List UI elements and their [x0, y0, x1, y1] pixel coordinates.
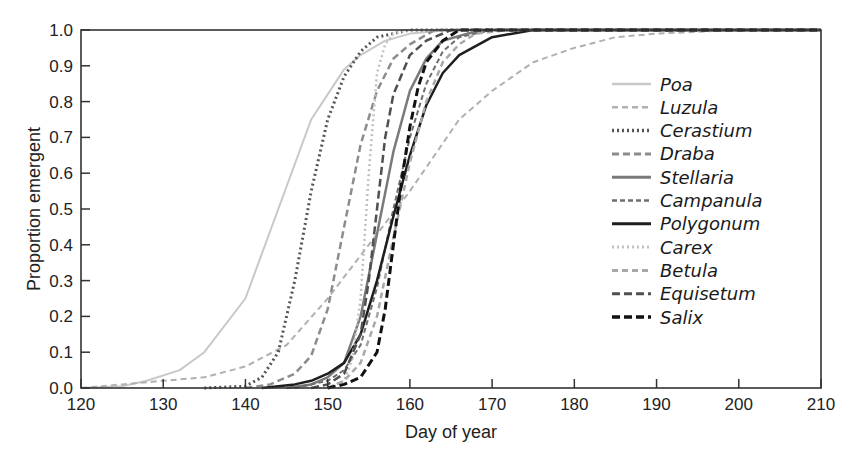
y-tick-label: 0.1 — [49, 343, 73, 362]
y-axis-title: Proportion emergent — [24, 127, 44, 291]
x-tick-label: 160 — [396, 395, 424, 414]
legend-label: Stellaria — [660, 167, 734, 188]
x-tick-label: 190 — [642, 395, 670, 414]
legend-item-carex: Carex — [612, 237, 713, 258]
legend-label: Luzula — [660, 97, 718, 118]
legend-item-equisetum: Equisetum — [612, 283, 756, 304]
y-tick-label: 0.6 — [49, 164, 73, 183]
y-tick-label: 0.4 — [49, 236, 73, 255]
legend-item-draba: Draba — [612, 143, 715, 164]
x-tick-label: 210 — [807, 395, 835, 414]
y-tick-label: 0.2 — [49, 307, 73, 326]
y-tick-label: 0.9 — [49, 57, 73, 76]
x-tick-label: 180 — [560, 395, 588, 414]
legend-label: Betula — [660, 260, 718, 281]
x-tick-label: 170 — [478, 395, 506, 414]
emergence-chart: 0.00.10.20.30.40.50.60.70.80.91.0 120130… — [0, 0, 850, 464]
legend-item-cerastium: Cerastium — [612, 120, 752, 141]
legend-label: Salix — [660, 307, 703, 328]
y-tick-label: 0.8 — [49, 93, 73, 112]
x-axis: 120130140150160170180190200210 — [67, 379, 835, 414]
legend-label: Campanula — [660, 190, 762, 211]
legend-label: Carex — [660, 237, 713, 258]
legend-label: Polygonum — [660, 213, 760, 234]
y-tick-label: 0.3 — [49, 272, 73, 291]
legend-item-campanula: Campanula — [612, 190, 762, 211]
y-tick-label: 0.5 — [49, 200, 73, 219]
y-tick-label: 1.0 — [49, 21, 73, 40]
x-axis-title: Day of year — [405, 422, 497, 442]
y-axis: 0.00.10.20.30.40.50.60.70.80.91.0 — [49, 21, 90, 398]
x-tick-label: 120 — [67, 395, 95, 414]
x-tick-label: 200 — [725, 395, 753, 414]
legend-item-polygonum: Polygonum — [612, 213, 760, 234]
legend-label: Equisetum — [660, 283, 756, 304]
legend-label: Poa — [660, 74, 693, 95]
x-tick-label: 150 — [313, 395, 341, 414]
y-tick-label: 0.7 — [49, 128, 73, 147]
legend-label: Cerastium — [660, 120, 752, 141]
legend-item-salix: Salix — [612, 307, 703, 328]
legend-item-luzula: Luzula — [612, 97, 718, 118]
x-tick-label: 140 — [231, 395, 259, 414]
legend-label: Draba — [660, 143, 715, 164]
legend-item-poa: Poa — [612, 74, 693, 95]
legend-item-betula: Betula — [612, 260, 718, 281]
x-tick-label: 130 — [149, 395, 177, 414]
legend-item-stellaria: Stellaria — [612, 167, 734, 188]
legend: PoaLuzulaCerastiumDrabaStellariaCampanul… — [612, 74, 762, 328]
